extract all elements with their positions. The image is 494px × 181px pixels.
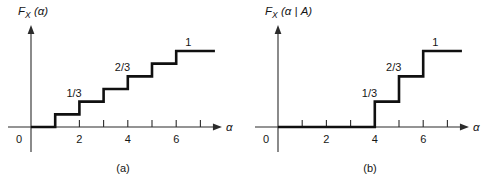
level-annotation: 2/3 — [115, 61, 130, 73]
x-axis-arrow-icon — [460, 124, 469, 131]
x-axis-tick-label: 2 — [323, 133, 329, 145]
level-annotation: 1 — [185, 36, 191, 48]
chart-svg-a: FX (α)α24601/32/31(a) — [0, 0, 247, 181]
chart-panel-a: FX (α)α24601/32/31(a) — [0, 0, 247, 181]
level-annotation: 2/3 — [386, 61, 401, 73]
origin-label: 0 — [263, 133, 269, 145]
axis-title: FX (α) — [18, 5, 48, 20]
x-axis-tick-label: 4 — [125, 133, 131, 145]
axis-title: FX (α | A) — [265, 5, 312, 20]
x-axis-tick-label: 6 — [173, 133, 179, 145]
chart-svg-b: FX (α | A)α24601/32/31(b) — [247, 0, 494, 181]
y-axis-arrow-icon — [28, 25, 35, 34]
x-axis-tick-label: 4 — [372, 133, 378, 145]
x-axis-label: α — [473, 121, 480, 133]
figure-container: FX (α)α24601/32/31(a) FX (α | A)α24601/3… — [0, 0, 494, 181]
level-annotation: 1/3 — [362, 87, 377, 99]
level-annotation: 1 — [432, 36, 438, 48]
chart-panel-b: FX (α | A)α24601/32/31(b) — [247, 0, 494, 181]
x-axis-label: α — [226, 121, 233, 133]
x-axis-arrow-icon — [213, 124, 222, 131]
origin-label: 0 — [16, 133, 22, 145]
x-axis-tick-label: 2 — [76, 133, 82, 145]
panel-caption: (a) — [116, 162, 129, 174]
level-annotation: 1/3 — [66, 87, 81, 99]
x-axis-tick-label: 6 — [420, 133, 426, 145]
panel-caption: (b) — [363, 162, 376, 174]
y-axis-arrow-icon — [275, 25, 282, 34]
